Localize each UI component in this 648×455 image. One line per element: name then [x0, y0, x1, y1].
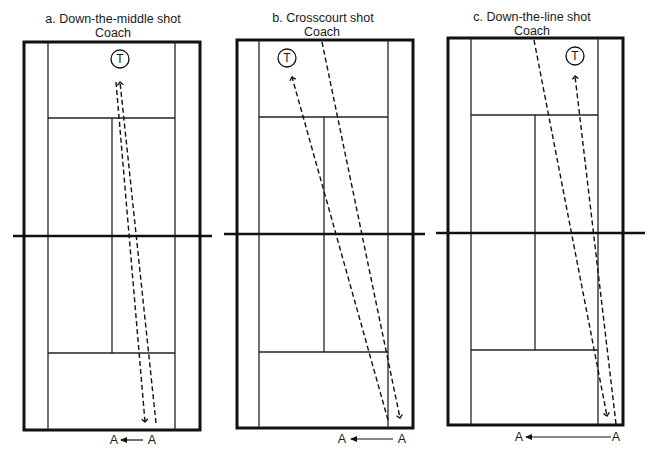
court-c-shot-down-the-line	[575, 76, 616, 424]
court-c-player-from: A	[612, 430, 620, 444]
court-a-player-from: A	[148, 433, 156, 447]
court-a-shot-to-coach	[120, 82, 156, 423]
court-c-player-to: A	[515, 430, 523, 444]
court-c	[436, 38, 645, 437]
court-b-player-from: A	[398, 432, 406, 446]
court-c-coach-marker-label: T	[571, 49, 578, 63]
court-a-coach-marker-label: T	[116, 52, 123, 66]
court-a	[13, 42, 212, 440]
court-a-shot-to-player	[116, 82, 145, 422]
court-b-player-to: A	[338, 432, 346, 446]
court-b-coach-marker-label: T	[283, 51, 290, 65]
tennis-drill-diagram	[0, 0, 648, 455]
court-b	[224, 40, 425, 439]
court-a-player-to: A	[110, 433, 118, 447]
court-c-shot-coach-feed	[534, 40, 607, 416]
